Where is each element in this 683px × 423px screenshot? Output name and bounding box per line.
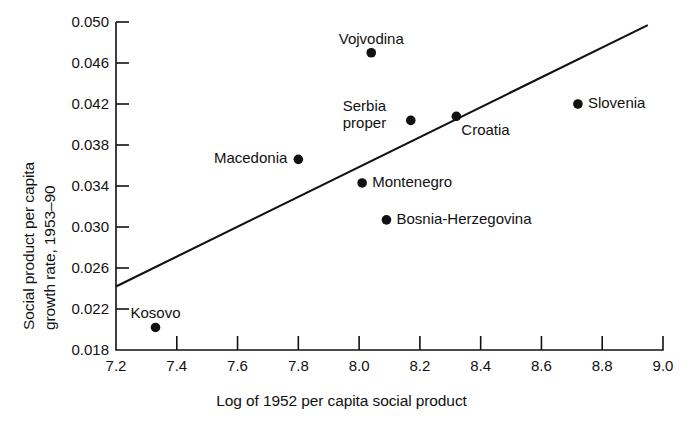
data-point <box>357 178 367 188</box>
data-point <box>573 99 583 109</box>
data-point <box>406 116 416 126</box>
data-point <box>294 155 304 165</box>
data-point <box>366 48 376 58</box>
data-point <box>452 112 462 122</box>
trend-line <box>116 25 648 286</box>
data-point <box>151 323 161 333</box>
plot-area <box>0 0 683 423</box>
data-points <box>151 48 583 332</box>
data-point <box>382 215 392 225</box>
scatter-chart: Social product per capita growth rate, 1… <box>0 0 683 423</box>
axes <box>116 22 663 350</box>
